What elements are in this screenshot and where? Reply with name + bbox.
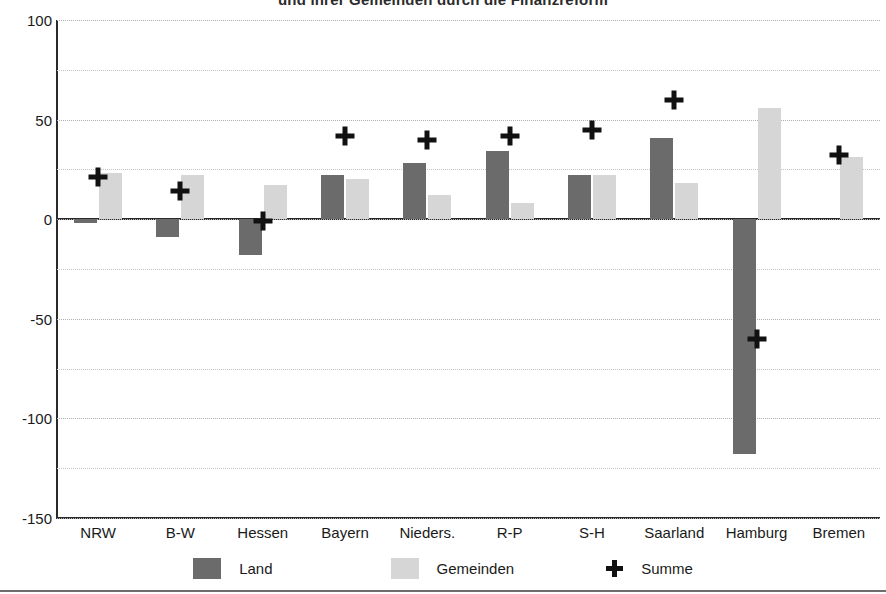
x-axis-tick-label: NRW: [80, 524, 116, 541]
bar-land[interactable]: [486, 151, 509, 219]
legend-label-land: Land: [239, 560, 272, 577]
bar-gemeinden[interactable]: [346, 179, 369, 219]
x-axis-tick-label: S-H: [579, 524, 605, 541]
bar-gemeinden[interactable]: [511, 203, 534, 219]
summe-plus-marker-icon[interactable]: [418, 130, 437, 149]
legend-plus-marker-icon: [606, 560, 623, 577]
bar-gemeinden[interactable]: [428, 195, 451, 219]
summe-plus-marker-icon[interactable]: [582, 120, 601, 139]
bar-group: [798, 20, 880, 518]
legend-label-summe: Summe: [641, 560, 693, 577]
y-axis-tick-label: 0: [2, 211, 52, 228]
bar-group: [139, 20, 221, 518]
summe-plus-marker-icon[interactable]: [171, 182, 190, 201]
bar-group: [222, 20, 304, 518]
y-axis-tick-label: 50: [2, 111, 52, 128]
y-axis-tick-labels: 100500-50-100-150: [0, 0, 52, 594]
x-axis-tick-labels: NRWB-WHessenBayernNieders.R-PS-HSaarland…: [57, 524, 880, 548]
legend-item-summe[interactable]: Summe: [606, 560, 693, 577]
bar-gemeinden[interactable]: [840, 157, 863, 219]
bar-land[interactable]: [321, 175, 344, 219]
legend-label-gemeinden: Gemeinden: [437, 560, 515, 577]
legend-item-gemeinden[interactable]: Gemeinden: [391, 558, 515, 579]
y-axis-tick-label: -100: [2, 410, 52, 427]
bottom-divider: [0, 590, 886, 592]
legend-item-land[interactable]: Land: [193, 558, 272, 579]
x-axis-tick-label: Hamburg: [726, 524, 788, 541]
bar-group: [715, 20, 797, 518]
summe-plus-marker-icon[interactable]: [829, 146, 848, 165]
x-axis-tick-label: Nieders.: [399, 524, 455, 541]
bar-group: [386, 20, 468, 518]
bar-group: [469, 20, 551, 518]
y-axis-tick-label: 100: [2, 12, 52, 29]
legend-swatch-land-icon: [193, 558, 221, 579]
chart-page: und ihrer Gemeinden durch die Finanzrefo…: [0, 0, 886, 594]
plot-area: [57, 20, 880, 518]
x-axis-tick-label: R-P: [497, 524, 523, 541]
x-axis-tick-label: Bayern: [321, 524, 369, 541]
bar-gemeinden[interactable]: [593, 175, 616, 219]
summe-plus-marker-icon[interactable]: [747, 329, 766, 348]
bar-land[interactable]: [74, 219, 97, 223]
x-axis-tick-label: Bremen: [813, 524, 866, 541]
bar-group: [633, 20, 715, 518]
bar-group: [57, 20, 139, 518]
summe-plus-marker-icon[interactable]: [665, 90, 684, 109]
x-axis-tick-label: Hessen: [237, 524, 288, 541]
y-axis-tick-label: -150: [2, 510, 52, 527]
chart-title: und ihrer Gemeinden durch die Finanzrefo…: [0, 0, 886, 8]
bar-land[interactable]: [650, 138, 673, 220]
y-axis-tick-label: -50: [2, 310, 52, 327]
summe-plus-marker-icon[interactable]: [500, 126, 519, 145]
bar-land[interactable]: [568, 175, 591, 219]
bar-land[interactable]: [156, 219, 179, 237]
bar-gemeinden[interactable]: [758, 108, 781, 220]
bar-group: [551, 20, 633, 518]
summe-plus-marker-icon[interactable]: [89, 168, 108, 187]
gridline: [57, 518, 880, 519]
x-axis-tick-label: B-W: [166, 524, 195, 541]
summe-plus-marker-icon[interactable]: [336, 126, 355, 145]
summe-plus-marker-icon[interactable]: [253, 212, 272, 231]
bar-land[interactable]: [403, 163, 426, 219]
bar-gemeinden[interactable]: [675, 183, 698, 219]
bar-group: [304, 20, 386, 518]
legend-swatch-gemeinden-icon: [391, 558, 419, 579]
x-axis-tick-label: Saarland: [644, 524, 704, 541]
chart-legend: Land Gemeinden Summe: [0, 558, 886, 579]
